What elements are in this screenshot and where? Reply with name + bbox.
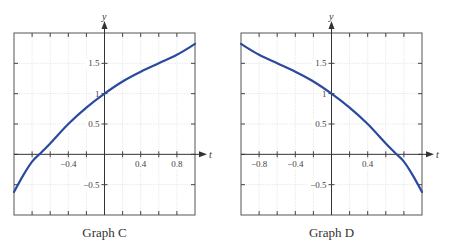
x-tick-label: 0.4: [135, 159, 147, 169]
x-tick-label: −0.8: [251, 159, 268, 169]
y-tick-label: −0.5: [310, 180, 327, 190]
x-tick-label: −0.4: [287, 159, 304, 169]
y-tick-label: 0.5: [315, 119, 327, 129]
t-axis-label: t: [436, 149, 439, 160]
graph-d: ty−0.8−0.40.41.510.5−0.5Graph D: [241, 11, 439, 240]
y-tick-label: −0.5: [83, 180, 100, 190]
x-tick-label: −0.4: [60, 159, 77, 169]
t-axis-arrow-icon: [199, 151, 207, 157]
y-axis-label: y: [328, 11, 334, 22]
t-axis-arrow-icon: [426, 151, 434, 157]
x-tick-label: 0.4: [362, 159, 374, 169]
y-tick-label: 0.5: [88, 119, 100, 129]
x-tick-label: 0.8: [171, 159, 183, 169]
y-axis-arrow-icon: [329, 21, 335, 29]
y-axis-arrow-icon: [102, 21, 108, 29]
y-axis-label: y: [101, 11, 107, 22]
y-tick-label: 1.5: [315, 58, 327, 68]
graph-caption: Graph D: [309, 225, 354, 240]
t-axis-label: t: [209, 149, 212, 160]
graph-caption: Graph C: [82, 225, 126, 240]
y-tick-label: 1.5: [88, 58, 100, 68]
graph-c: ty−0.40.40.81.510.5−0.5Graph C: [14, 11, 212, 240]
figure: ty−0.40.40.81.510.5−0.5Graph C ty−0.8−0.…: [0, 0, 451, 245]
